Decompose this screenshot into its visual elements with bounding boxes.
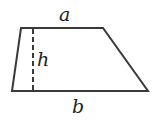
label-h: h (37, 48, 49, 70)
label-a: a (59, 3, 70, 25)
trapezoid-diagram: a h b (0, 0, 159, 120)
label-b: b (72, 95, 84, 117)
